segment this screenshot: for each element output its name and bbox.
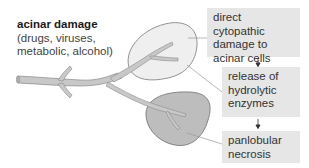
healthy-lobule xyxy=(128,23,197,80)
arrow-down-icon xyxy=(256,119,260,129)
step-box-release-of-enzymes: release of hydrolytic enzymes xyxy=(222,67,300,117)
step-text: hydrolytic xyxy=(228,84,294,98)
causes-line-1: (drugs, viruses, xyxy=(17,32,113,46)
step-text: necrosis xyxy=(228,148,294,162)
step-text: release of xyxy=(228,70,294,84)
step-text: damage to xyxy=(213,38,294,52)
main-duct xyxy=(18,73,122,86)
step-box-panlobular-necrosis: panlobular necrosis xyxy=(222,131,300,163)
step-text: direct cytopathic xyxy=(213,11,294,38)
leader-line-2 xyxy=(187,65,222,92)
pancreatic-acinar-damage-diagram: acinar damage (drugs, viruses, metabolic… xyxy=(0,0,309,168)
step-box-direct-cytopathic-damage: direct cytopathic damage to acinar cells xyxy=(207,8,300,57)
title-block: acinar damage (drugs, viruses, metabolic… xyxy=(17,18,113,59)
step-text: enzymes xyxy=(228,97,294,111)
causes-line-2: metabolic, alcohol) xyxy=(17,45,113,59)
step-text: panlobular xyxy=(228,134,294,148)
heading: acinar damage xyxy=(17,18,113,32)
step-text: acinar cells xyxy=(213,52,294,66)
